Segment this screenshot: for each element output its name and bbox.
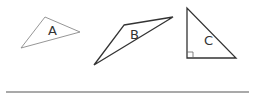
triangle-b-label: B [130,27,139,42]
triangle-a: A [21,17,80,48]
right-angle-marker-icon [187,52,193,58]
triangle-a-label: A [48,23,57,38]
triangle-b: B [94,17,173,65]
diagram-svg: A B C [0,0,257,109]
triangle-c-label: C [204,33,213,48]
triangle-c: C [187,8,236,58]
triangle-diagram: A B C [0,0,257,109]
